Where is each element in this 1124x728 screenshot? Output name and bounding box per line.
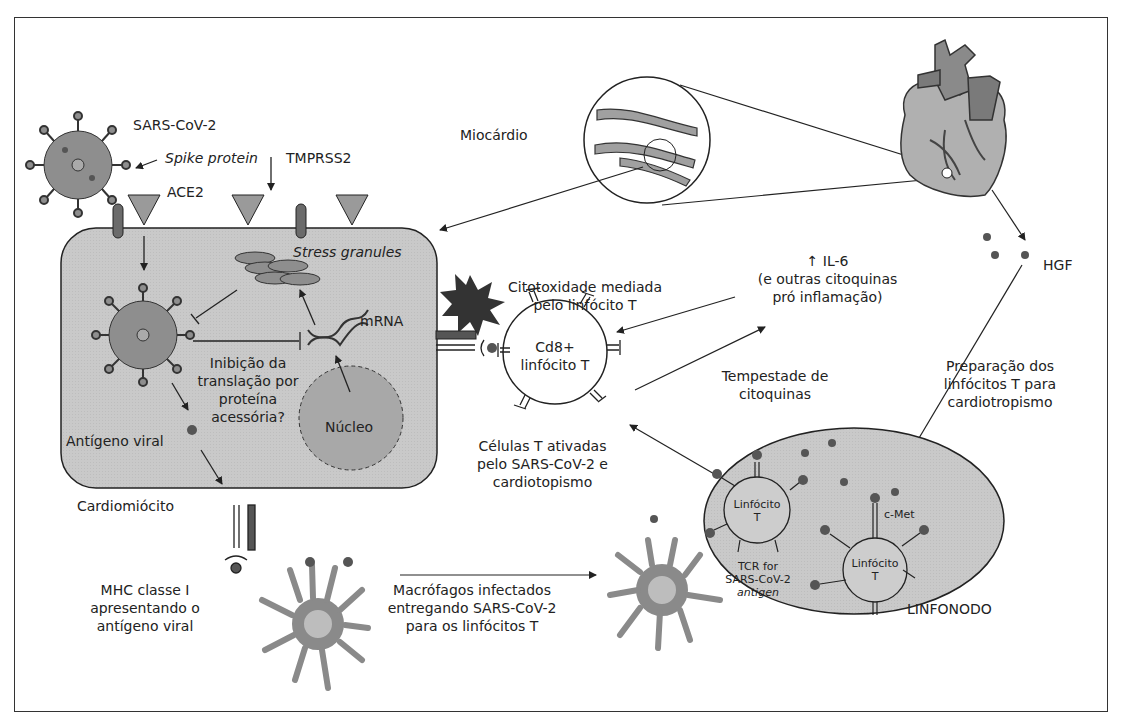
label-mhc: MHC classe I apresentando o antígeno vir…: [70, 581, 220, 635]
label-cardiomiocito: Cardiomiócito: [77, 497, 174, 515]
label-macrofagos: Macrófagos infectados entregando SARS-Co…: [372, 581, 572, 635]
label-linfocito-t-1: Linfócito T: [727, 498, 787, 524]
label-inibicao: Inibição da translação por proteína aces…: [188, 354, 308, 426]
label-mrna: mRNA: [360, 312, 403, 330]
label-sars-cov-2: SARS-CoV-2: [133, 116, 216, 134]
label-tempestade: Tempestade de citoquinas: [710, 367, 840, 403]
macrophage-left-icon: [262, 565, 368, 688]
label-celulas-t: Células T ativadas pelo SARS-CoV-2 e car…: [455, 437, 630, 491]
label-stress-granules: Stress granules: [293, 243, 402, 261]
macrophage-right-icon: [610, 540, 720, 648]
hgf-dots: [983, 233, 1029, 259]
label-spike-protein: Spike protein: [165, 149, 258, 167]
virus-outside-icon: [26, 112, 130, 217]
label-linfocito-t-2: Linfócito T: [845, 557, 905, 583]
virus-inside-icon: [92, 284, 194, 386]
myocardium-zoom-icon: [584, 77, 710, 203]
label-antigeno-viral: Antígeno viral: [66, 432, 164, 450]
label-hgf: HGF: [1043, 256, 1072, 274]
label-il6: ↑ IL-6 (e outras citoquinas pró inflamaç…: [740, 252, 915, 306]
label-miocardio: Miocárdio: [460, 126, 528, 144]
label-tmprss2: TMPRSS2: [286, 149, 351, 167]
label-ace2: ACE2: [167, 183, 204, 201]
label-citotoxidade: Citotoxidade mediada pelo linfócito T: [495, 278, 675, 314]
label-preparacao: Preparação dos linfócitos T para cardiot…: [925, 357, 1075, 411]
mhc-class-i-icon: [225, 505, 255, 573]
label-linfonodo: LINFONODO: [907, 600, 992, 618]
label-tcr: TCR for SARS-CoV-2 antigen: [718, 560, 798, 599]
label-nucleo: Núcleo: [325, 418, 373, 436]
label-cd8: Cd8+ linfócito T: [513, 338, 597, 374]
viral-antigen-dot: [187, 425, 197, 435]
label-c-met: c-Met: [884, 508, 915, 521]
heart-icon: [901, 40, 1006, 196]
